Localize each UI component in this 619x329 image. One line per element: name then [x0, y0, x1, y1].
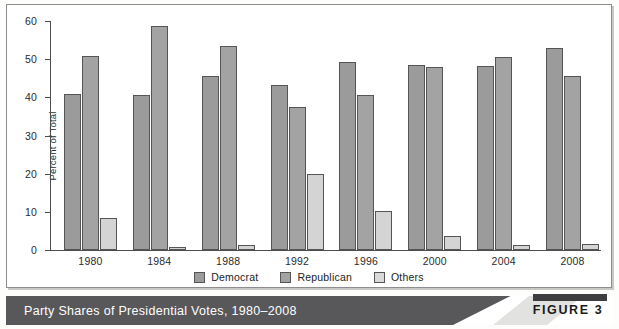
legend-label: Republican — [297, 271, 352, 283]
bar-group — [546, 21, 599, 250]
bar-republican-1980 — [82, 56, 99, 250]
bar-group — [133, 21, 186, 250]
bar-democrat-1988 — [202, 76, 219, 250]
chart-legend: DemocratRepublicanOthers — [7, 271, 611, 283]
y-axis-tick: 30 — [45, 136, 50, 137]
bar-republican-2008 — [564, 76, 581, 250]
bar-others-1996 — [375, 211, 392, 250]
legend-swatch-icon — [194, 272, 205, 283]
bar-republican-1996 — [357, 95, 374, 250]
bar-others-1992 — [307, 174, 324, 250]
y-axis-tick: 0 — [45, 250, 50, 251]
y-axis-tick-label: 10 — [25, 206, 37, 218]
bar-group — [339, 21, 392, 250]
y-axis-tick: 10 — [45, 212, 50, 213]
legend-label: Democrat — [211, 271, 258, 283]
legend-swatch-icon — [374, 272, 385, 283]
figure-badge-bar — [533, 294, 607, 301]
bar-others-2008 — [582, 244, 599, 250]
bar-republican-1992 — [289, 107, 306, 250]
y-axis-tick-label: 20 — [25, 168, 37, 180]
bar-others-1980 — [100, 218, 117, 250]
x-axis-tick-label: 1988 — [192, 255, 265, 267]
chart-plate: Percent of Total 0102030405060 198019841… — [6, 4, 612, 288]
y-axis-line — [50, 21, 51, 251]
bar-others-1988 — [238, 245, 255, 250]
legend-item-others: Others — [374, 271, 424, 283]
legend-item-republican: Republican — [280, 271, 352, 283]
legend-item-democrat: Democrat — [194, 271, 258, 283]
y-axis-tick-label: 60 — [25, 15, 37, 27]
caption-text: Party Shares of Presidential Votes, 1980… — [24, 304, 297, 318]
x-axis-tick-label: 2008 — [536, 255, 609, 267]
bar-group — [202, 21, 255, 250]
x-axis-tick-label: 1992 — [261, 255, 334, 267]
bar-democrat-2008 — [546, 48, 563, 250]
bar-republican-2004 — [495, 57, 512, 251]
bar-group — [477, 21, 530, 250]
legend-label: Others — [391, 271, 424, 283]
bar-republican-1988 — [220, 46, 237, 250]
y-axis-tick: 20 — [45, 174, 50, 175]
bar-democrat-2004 — [477, 66, 494, 250]
y-axis-tick: 60 — [45, 21, 50, 22]
bar-democrat-2000 — [408, 65, 425, 250]
x-axis-tick-label: 2004 — [467, 255, 540, 267]
plot-area: 0102030405060 19801984198819921996200020… — [50, 21, 601, 251]
bar-group — [64, 21, 117, 250]
y-axis-tick: 50 — [45, 59, 50, 60]
y-axis-tick-label: 50 — [25, 53, 37, 65]
bar-democrat-1980 — [64, 94, 81, 250]
figure-badge: FIGURE 3 — [525, 294, 611, 326]
y-axis-tick-label: 40 — [25, 91, 37, 103]
bar-others-1984 — [169, 247, 186, 250]
bar-group — [408, 21, 461, 250]
legend-swatch-icon — [280, 272, 291, 283]
x-axis-tick-label: 1984 — [123, 255, 196, 267]
x-axis-tick-label: 2000 — [398, 255, 471, 267]
y-axis-tick: 40 — [45, 97, 50, 98]
bar-others-2000 — [444, 236, 461, 251]
y-axis-tick-label: 30 — [25, 130, 37, 142]
bar-others-2004 — [513, 245, 530, 250]
bar-democrat-1984 — [133, 95, 150, 250]
bar-democrat-1992 — [271, 85, 288, 250]
figure-container: Percent of Total 0102030405060 198019841… — [0, 0, 619, 329]
y-axis-tick-label: 0 — [31, 244, 37, 256]
figure-badge-label: FIGURE 3 — [525, 303, 611, 317]
x-axis-tick-label: 1980 — [54, 255, 127, 267]
bar-democrat-1996 — [339, 62, 356, 250]
caption-banner: Party Shares of Presidential Votes, 1980… — [6, 296, 613, 325]
bar-republican-1984 — [151, 26, 168, 250]
bar-republican-2000 — [426, 67, 443, 250]
bar-group — [271, 21, 324, 250]
x-axis-tick-label: 1996 — [329, 255, 402, 267]
x-axis-line — [50, 250, 601, 251]
